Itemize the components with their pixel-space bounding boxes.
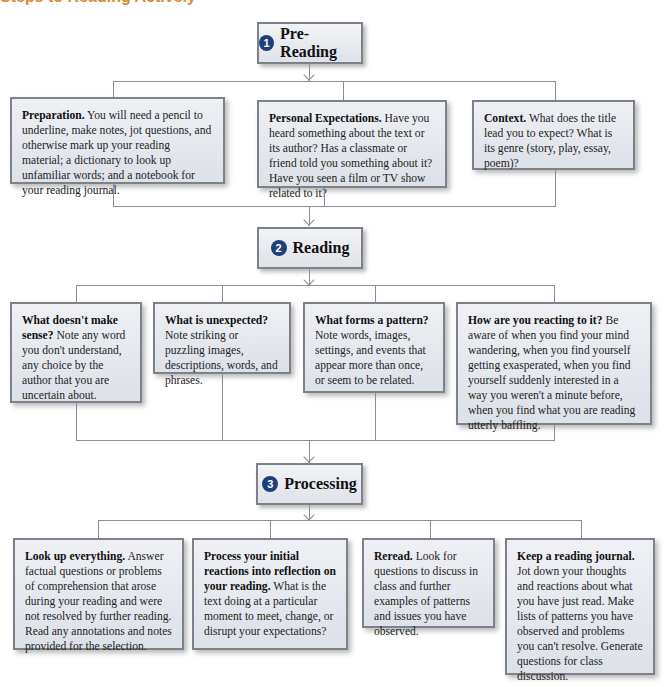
card-heading: What forms a pattern? [315,314,429,327]
connector [76,285,555,286]
card-heading: Look up everything. [25,550,125,563]
connector [375,393,376,440]
arrow-down-icon [303,451,314,462]
card-context: Context. What does the title lead you to… [472,100,635,170]
card-heading: Preparation. [22,109,85,122]
connector [113,81,556,82]
connector [555,81,556,100]
connector [375,285,376,302]
card-body: Jot down your thoughts and reactions abo… [517,565,643,683]
card-what-doesnt-make-sense: What doesn't make sense? Note any word y… [10,302,142,403]
card-keep-reading-journal: Keep a reading journal. Jot down your th… [505,538,655,675]
connector [343,81,344,100]
connector [76,285,77,302]
card-heading: Personal Expectations. [269,112,382,125]
connector [113,206,556,207]
stage-pre-reading: 1 Pre-Reading [257,22,363,64]
card-heading: How are you reacting to it? [468,314,603,327]
card-look-up-everything: Look up everything. Answer factual quest… [13,538,184,650]
stage-processing: 3 Processing [256,463,363,505]
card-body: Note words, images, settings, and events… [315,329,426,387]
connector [98,520,99,538]
card-what-is-unexpected: What is unexpected? Note striking or puz… [153,302,291,374]
stage-reading: 2 Reading [257,227,363,269]
card-heading: What is unexpected? [165,314,268,327]
connector [581,520,582,538]
connector [113,81,114,98]
step-number-badge: 2 [271,240,287,256]
step-number-badge: 3 [262,476,278,492]
connector [222,285,223,302]
connector [554,285,555,302]
card-heading: Reread. [374,550,413,563]
card-body: Look for questions to discuss in class a… [374,550,478,638]
arrow-down-icon [303,214,314,225]
card-personal-expectations: Personal Expectations. Have you heard so… [257,100,447,188]
card-heading: Keep a reading journal. [517,550,635,563]
connector [76,440,555,441]
card-what-forms-a-pattern: What forms a pattern? Note words, images… [303,302,445,393]
card-process-initial-reactions: Process your initial reactions into refl… [192,538,348,650]
page-title-cropped: Steps to Reading Actively [0,0,667,6]
connector [76,403,77,440]
arrow-down-icon [303,274,314,285]
connector [222,374,223,440]
card-preparation: Preparation. You will need a pencil to u… [10,97,225,184]
card-body: You will need a pencil to underline, mak… [22,109,211,197]
stage-label: Pre-Reading [280,25,361,61]
card-how-are-you-reacting: How are you reacting to it? Be aware of … [456,302,652,425]
card-body: Be aware of when you find your mind wand… [468,314,635,432]
stage-label: Reading [293,239,350,257]
connector [324,188,325,206]
arrow-down-icon [303,69,314,80]
card-heading: Context. [484,112,526,125]
step-number-badge: 1 [259,35,274,51]
card-body: Have you heard something about the text … [269,112,432,200]
connector [555,170,556,206]
connector [113,184,114,206]
connector [554,425,555,440]
connector [270,520,271,538]
card-body: Answer factual questions or problems of … [25,550,172,653]
card-reread: Reread. Look for questions to discuss in… [362,538,495,628]
connector [430,520,431,538]
connector [98,520,581,521]
stage-label: Processing [284,475,357,493]
arrow-down-icon [303,509,314,520]
